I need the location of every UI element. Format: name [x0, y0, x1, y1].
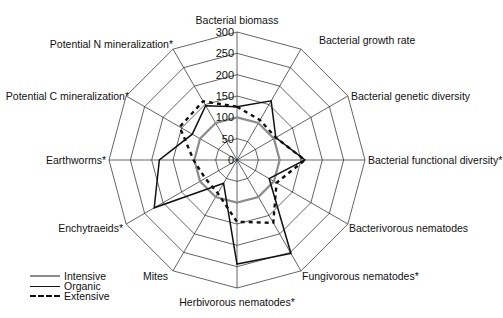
legend-item-extensive: Extensive: [30, 291, 110, 301]
tick-label: 300: [216, 26, 234, 38]
axis-spoke: [237, 160, 301, 271]
radar-spokes: [109, 32, 365, 288]
axis-label: Potential C mineralization*: [6, 90, 129, 102]
legend-swatch-extensive: [30, 295, 60, 297]
tick-label: 200: [216, 69, 234, 81]
axis-label: Herbivorous nematodes*: [179, 296, 295, 308]
axis-label: Earthworms*: [46, 154, 106, 166]
tick-label: 150: [216, 90, 234, 102]
legend-swatch-intensive: [30, 275, 60, 277]
axis-label: Fungivorous nematodes*: [302, 270, 419, 282]
axis-spoke: [126, 160, 237, 224]
tick-label: 250: [216, 47, 234, 59]
axis-spoke: [237, 160, 348, 224]
axis-spoke: [173, 160, 237, 271]
axis-label: Bacterial functional diversity*: [368, 154, 502, 166]
tick-label: 0: [228, 154, 234, 166]
tick-label: 50: [222, 133, 234, 145]
axis-label: Bacterial growth rate: [319, 34, 415, 46]
tick-label: 100: [216, 111, 234, 123]
axis-label: Bacterial genetic diversity: [351, 90, 471, 102]
legend: Intensive Organic Extensive: [30, 271, 110, 301]
axis-label: Bacterial biomass: [196, 14, 279, 26]
axis-label: Enchytraeids*: [58, 222, 123, 234]
legend-label: Extensive: [64, 291, 110, 301]
legend-swatch-organic: [30, 286, 60, 287]
radial-tick-labels: 050100150200250300: [216, 26, 234, 166]
axis-label: Bacterivorous nematodes: [349, 222, 468, 234]
axis-label: Potential N mineralization*: [50, 38, 173, 50]
axis-label: Mites: [143, 270, 168, 282]
